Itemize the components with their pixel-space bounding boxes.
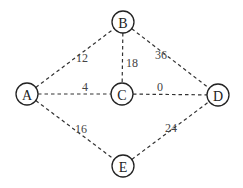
edge-weight-A-B: 12 <box>76 51 88 65</box>
node-A: A <box>16 83 38 105</box>
edge-weight-B-C: 18 <box>126 56 138 70</box>
node-label: D <box>213 89 223 104</box>
node-label: A <box>22 88 33 103</box>
node-label: E <box>119 160 128 175</box>
node-label: B <box>118 16 127 31</box>
graph-diagram: 121836401624 ABCDE <box>0 0 243 188</box>
node-C: C <box>111 83 133 105</box>
edge-weight-C-D: 0 <box>157 80 163 94</box>
edge-A-B <box>36 29 114 88</box>
node-B: B <box>112 11 134 33</box>
edge-weight-A-C: 4 <box>82 80 88 94</box>
edge-weight-B-D: 36 <box>155 48 167 62</box>
edge-B-D <box>132 29 210 89</box>
edge-C-D <box>133 94 207 95</box>
edge-weight-E-D: 24 <box>165 121 177 135</box>
node-label: C <box>117 88 126 103</box>
edge-weight-A-E: 16 <box>75 122 87 136</box>
edge-B-C <box>122 33 123 83</box>
node-E: E <box>112 155 134 177</box>
node-D: D <box>207 84 229 106</box>
